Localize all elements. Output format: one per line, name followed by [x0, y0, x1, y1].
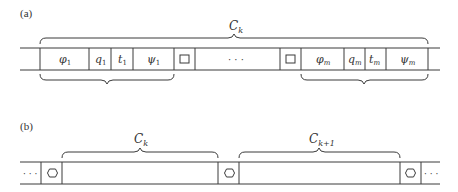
tape-diagram: (a) (b) Ck φ1 q1 t1 ψ1 · · · φm qm tm ψm…: [0, 0, 458, 192]
cell-q-m: qm: [348, 53, 362, 67]
brace-label-ck: Ck: [134, 132, 148, 148]
right-ellipsis: · · ·: [424, 169, 438, 179]
top-brace: [40, 34, 428, 44]
cell-t-m: tm: [369, 53, 380, 67]
cell-psi-m: ψm: [400, 53, 416, 67]
cell-q-1: q1: [95, 53, 107, 67]
panel-b-label: (b): [20, 120, 33, 133]
blank-square-icon: [286, 55, 295, 63]
panel-a-label: (a): [20, 7, 33, 20]
left-ellipsis: · · ·: [23, 169, 37, 179]
brace-label-ck1: Ck+1: [309, 132, 335, 148]
brace-ck: [62, 148, 218, 158]
under-brace-first: [40, 74, 174, 84]
hexagon-icon: [406, 169, 416, 177]
blank-square-icon: [180, 55, 189, 63]
hexagon-icon: [225, 169, 235, 177]
brace-ck1: [239, 148, 400, 158]
cell-psi-1: ψ1: [147, 53, 160, 67]
cell-phi-1: φ1: [59, 53, 71, 67]
under-brace-last: [301, 74, 428, 84]
cell-t-1: t1: [118, 53, 127, 67]
hexagon-icon: [48, 169, 58, 177]
cell-phi-m: φm: [316, 53, 331, 67]
ellipsis: · · ·: [228, 54, 244, 65]
brace-label-ck: Ck: [229, 19, 243, 35]
